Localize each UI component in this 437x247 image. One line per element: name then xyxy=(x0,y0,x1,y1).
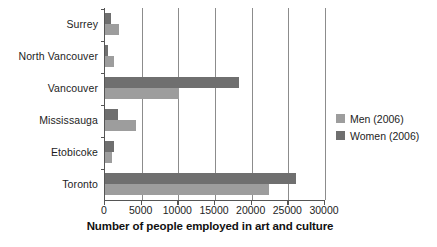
bar-women xyxy=(105,141,114,152)
category-label: North Vancouver xyxy=(18,50,98,62)
legend-swatch-icon xyxy=(336,114,345,123)
x-tick-label: 0 xyxy=(101,204,107,217)
x-tick-label: 15000 xyxy=(199,204,228,217)
bar-women xyxy=(105,13,111,24)
x-axis-tick-labels: 050001000015000200002500030000 xyxy=(0,204,437,218)
bar-group xyxy=(105,40,325,72)
chart-legend: Men (2006)Women (2006) xyxy=(336,111,436,145)
bar-women xyxy=(105,109,118,120)
legend-item[interactable]: Women (2006) xyxy=(336,128,436,143)
bar-men xyxy=(105,56,114,67)
x-tick-label: 20000 xyxy=(236,204,265,217)
category-label: Vancouver xyxy=(48,82,98,94)
legend-item[interactable]: Men (2006) xyxy=(336,111,436,126)
bar-men xyxy=(105,24,119,35)
category-label: Surrey xyxy=(66,18,98,30)
bar-women xyxy=(105,45,108,56)
bar-group xyxy=(105,72,325,104)
bar-group xyxy=(105,8,325,40)
bar-chart: SurreyNorth VancouverVancouverMississaug… xyxy=(0,0,437,247)
x-tick-label: 10000 xyxy=(163,204,192,217)
x-tick-label: 25000 xyxy=(273,204,302,217)
bar-men xyxy=(105,120,136,131)
category-label: Toronto xyxy=(62,178,98,190)
x-tick-label: 5000 xyxy=(129,204,152,217)
category-label: Etobicoke xyxy=(51,146,98,158)
x-tick-label: 30000 xyxy=(309,204,338,217)
category-label: Mississauga xyxy=(39,114,98,126)
bar-group xyxy=(105,168,325,200)
plot-area xyxy=(104,8,325,201)
bar-women xyxy=(105,173,296,184)
bar-men xyxy=(105,152,112,163)
bar-group xyxy=(105,136,325,168)
category-axis: SurreyNorth VancouverVancouverMississaug… xyxy=(0,8,100,200)
x-axis-title: Number of people employed in art and cul… xyxy=(60,220,360,232)
gridline xyxy=(325,8,326,200)
legend-label: Men (2006) xyxy=(350,113,404,125)
bar-men xyxy=(105,184,269,195)
bar-group xyxy=(105,104,325,136)
legend-swatch-icon xyxy=(336,131,345,140)
legend-label: Women (2006) xyxy=(350,130,419,142)
bar-women xyxy=(105,77,239,88)
bar-men xyxy=(105,88,179,99)
